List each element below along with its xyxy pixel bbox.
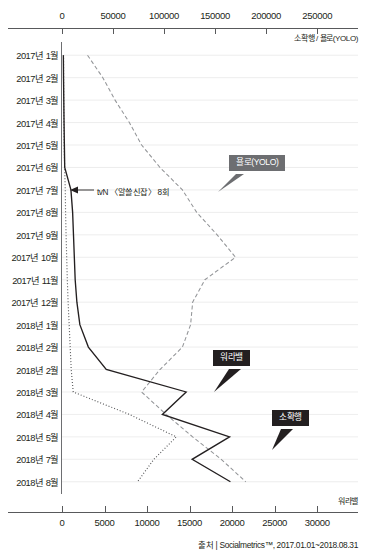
chart-figure: 050000100000150000200000250000 소확행 / 욜로(… xyxy=(0,0,366,555)
axis-tick xyxy=(275,506,276,512)
axis-tick-label: 0 xyxy=(60,517,65,528)
axis-tick xyxy=(105,506,106,512)
source-note: 출처 | Socialmetrics™, 2017.01.01~2018.08.… xyxy=(198,538,358,550)
bottom-axis-label: 워라밸 xyxy=(338,495,358,506)
axis-tick-label: 25000 xyxy=(262,517,287,528)
axis-tick-label: 15000 xyxy=(177,517,202,528)
axis-tick-label: 30000 xyxy=(305,517,330,528)
axis-tick xyxy=(232,506,233,512)
annotation-arrow xyxy=(0,0,366,555)
axis-tick xyxy=(147,506,148,512)
axis-tick xyxy=(190,506,191,512)
axis-tick xyxy=(317,506,318,512)
annotation-text: tvN 〈알쓸신잡〉 8회 xyxy=(97,185,169,197)
axis-tick xyxy=(62,506,63,512)
bottom-axis-line xyxy=(8,512,358,513)
axis-tick-label: 5000 xyxy=(95,517,115,528)
axis-tick-label: 20000 xyxy=(220,517,245,528)
axis-tick-label: 10000 xyxy=(135,517,160,528)
